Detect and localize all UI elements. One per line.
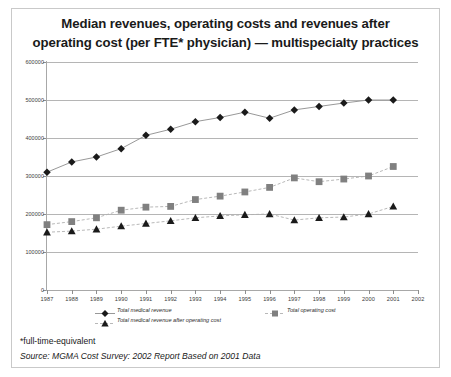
source-text: Source: MGMA Cost Survey: 2002 Report Ba… [20,351,260,361]
y-tick-label: 100000 [4,249,44,255]
y-tick-label: 0 [4,287,44,293]
x-axis-line [47,290,418,291]
legend-triangle-icon [95,320,115,327]
x-tick-mark [121,290,122,294]
x-tick-mark [96,290,97,294]
y-tick-label: 200000 [4,211,44,217]
x-tick-mark [171,290,172,294]
x-tick-mark [418,290,419,294]
y-tick-label: 300000 [4,173,44,179]
x-tick-mark [393,290,394,294]
chart-figure: Median revenues, operating costs and rev… [0,0,451,377]
plot-area [47,62,418,290]
x-tick-label: 2002 [398,296,438,302]
chart-title-line-2: operating cost (per FTE* physician) — mu… [18,33,433,52]
x-tick-mark [344,290,345,294]
chart-legend: Total medical revenueTotal operating cos… [95,307,395,329]
y-tick-label: 400000 [4,135,44,141]
x-tick-mark [294,290,295,294]
chart-title: Median revenues, operating costs and rev… [18,14,433,52]
x-tick-mark [195,290,196,294]
footnote-text: *full-time-equivalent [20,336,95,346]
gridline-100000 [47,252,418,253]
y-axis-tick-labels: 0100000200000300000400000500000600000 [0,62,44,290]
gridline-300000 [47,176,418,177]
gridline-600000 [47,62,418,63]
legend-label: Total medical revenue after operating co… [117,317,221,323]
gridline-200000 [47,214,418,215]
x-tick-mark [245,290,246,294]
x-tick-mark [72,290,73,294]
legend-square-icon [265,310,285,317]
x-tick-mark [319,290,320,294]
chart-title-line-1: Median revenues, operating costs and rev… [18,14,433,33]
legend-diamond-icon [95,310,115,317]
gridline-500000 [47,100,418,101]
legend-label: Total operating cost [287,307,336,313]
gridline-400000 [47,138,418,139]
legend-label: Total medical revenue [117,307,172,313]
y-axis-line [46,61,47,291]
x-tick-mark [47,290,48,294]
x-tick-mark [220,290,221,294]
y-tick-label: 500000 [4,97,44,103]
x-tick-mark [146,290,147,294]
y-tick-label: 600000 [4,59,44,65]
x-tick-mark [369,290,370,294]
x-tick-mark [270,290,271,294]
